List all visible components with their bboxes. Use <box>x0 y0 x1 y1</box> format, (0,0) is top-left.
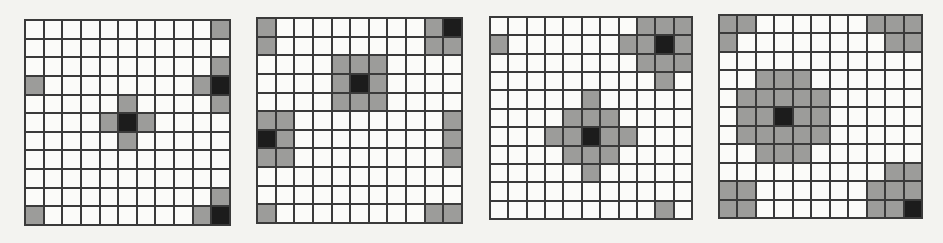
grid-3 <box>489 16 693 220</box>
gray-cell <box>794 127 810 143</box>
empty-cell <box>620 183 636 199</box>
empty-cell <box>119 40 136 57</box>
empty-cell <box>295 94 312 111</box>
empty-cell <box>314 94 331 111</box>
empty-cell <box>258 56 275 73</box>
empty-cell <box>905 71 921 87</box>
empty-cell <box>333 131 350 148</box>
gray-cell <box>351 94 368 111</box>
empty-cell <box>794 201 810 217</box>
gray-cell <box>564 110 580 126</box>
empty-cell <box>831 34 847 50</box>
empty-cell <box>295 187 312 204</box>
empty-cell <box>738 34 754 50</box>
empty-cell <box>351 38 368 55</box>
empty-cell <box>831 201 847 217</box>
empty-cell <box>620 147 636 163</box>
empty-cell <box>564 91 580 107</box>
empty-cell <box>175 21 192 38</box>
empty-cell <box>583 73 599 89</box>
empty-cell <box>528 165 544 181</box>
empty-cell <box>775 16 791 32</box>
empty-cell <box>314 75 331 92</box>
empty-cell <box>528 183 544 199</box>
gray-cell <box>258 19 275 36</box>
gray-cell <box>138 114 155 131</box>
empty-cell <box>546 183 562 199</box>
gray-cell <box>794 108 810 124</box>
empty-cell <box>831 53 847 69</box>
empty-cell <box>528 91 544 107</box>
empty-cell <box>620 202 636 218</box>
empty-cell <box>63 207 80 224</box>
gray-cell <box>258 149 275 166</box>
gray-cell <box>905 164 921 180</box>
empty-cell <box>351 112 368 129</box>
empty-cell <box>656 147 672 163</box>
empty-cell <box>812 201 828 217</box>
empty-cell <box>351 149 368 166</box>
black-cell <box>212 77 229 94</box>
empty-cell <box>546 55 562 71</box>
empty-cell <box>156 114 173 131</box>
empty-cell <box>528 18 544 34</box>
empty-cell <box>82 21 99 38</box>
grid-1 <box>24 19 231 226</box>
empty-cell <box>314 187 331 204</box>
empty-cell <box>333 112 350 129</box>
empty-cell <box>444 75 461 92</box>
empty-cell <box>528 202 544 218</box>
empty-cell <box>388 149 405 166</box>
empty-cell <box>509 147 525 163</box>
black-cell <box>656 36 672 52</box>
gray-cell <box>638 36 654 52</box>
empty-cell <box>45 21 62 38</box>
gray-cell <box>119 133 136 150</box>
black-cell <box>258 131 275 148</box>
gray-cell <box>258 205 275 222</box>
empty-cell <box>444 56 461 73</box>
empty-cell <box>175 170 192 187</box>
empty-cell <box>138 170 155 187</box>
empty-cell <box>656 110 672 126</box>
empty-cell <box>849 34 865 50</box>
empty-cell <box>119 21 136 38</box>
empty-cell <box>26 114 43 131</box>
gray-cell <box>194 207 211 224</box>
empty-cell <box>63 114 80 131</box>
empty-cell <box>831 182 847 198</box>
empty-cell <box>295 112 312 129</box>
empty-cell <box>277 56 294 73</box>
empty-cell <box>426 168 443 185</box>
gray-cell <box>775 90 791 106</box>
empty-cell <box>82 133 99 150</box>
empty-cell <box>868 34 884 50</box>
empty-cell <box>370 131 387 148</box>
empty-cell <box>905 127 921 143</box>
empty-cell <box>82 151 99 168</box>
empty-cell <box>675 128 691 144</box>
gray-cell <box>868 182 884 198</box>
empty-cell <box>407 19 424 36</box>
gray-cell <box>675 18 691 34</box>
empty-cell <box>156 96 173 113</box>
empty-cell <box>314 168 331 185</box>
gray-cell <box>720 201 736 217</box>
empty-cell <box>370 205 387 222</box>
black-cell <box>444 19 461 36</box>
gray-cell <box>101 114 118 131</box>
empty-cell <box>720 71 736 87</box>
empty-cell <box>388 94 405 111</box>
empty-cell <box>194 58 211 75</box>
gray-cell <box>886 182 902 198</box>
empty-cell <box>564 55 580 71</box>
empty-cell <box>333 168 350 185</box>
empty-cell <box>849 164 865 180</box>
empty-cell <box>295 19 312 36</box>
empty-cell <box>831 71 847 87</box>
empty-cell <box>138 151 155 168</box>
empty-cell <box>314 56 331 73</box>
gray-cell <box>868 16 884 32</box>
empty-cell <box>138 96 155 113</box>
empty-cell <box>212 151 229 168</box>
